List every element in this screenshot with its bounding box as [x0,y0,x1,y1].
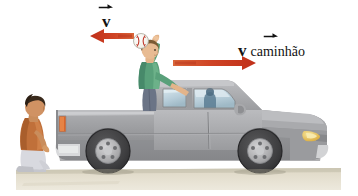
pickup-truck [56,80,329,175]
ground-strip [16,168,341,190]
rear-wheel [86,129,130,173]
front-wheel [238,129,282,173]
truck-velocity-symbol: v [238,42,247,59]
truck-velocity-subscript: caminhão [251,44,305,59]
truck-velocity-label: v caminhão [238,42,305,59]
ball-velocity-symbol: v [102,13,111,30]
ball-velocity-arrow [90,29,134,43]
physics-diagram-scene: v v caminhão [0,0,358,196]
ball-velocity-label: v [102,13,111,30]
diagram-canvas [0,0,358,196]
person-crouching-observer [16,94,50,172]
baseball [134,34,149,49]
